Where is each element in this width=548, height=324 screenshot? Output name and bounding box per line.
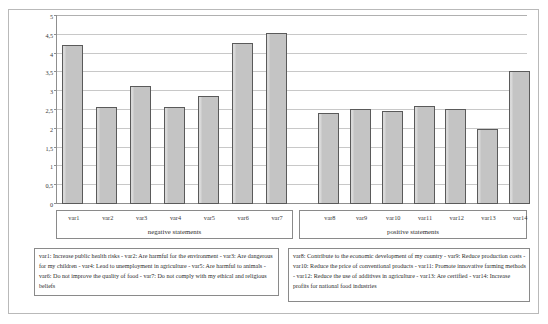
category-label-var14: var14 — [513, 214, 527, 221]
y-axis-tick-label: 2 — [50, 125, 53, 132]
y-axis-tick-label: 5 — [50, 13, 53, 20]
category-label-var8: var8 — [324, 214, 335, 221]
y-axis-tick-label: 1 — [50, 163, 53, 170]
y-axis-tick-label: 0,5 — [46, 182, 53, 189]
category-label-var5: var5 — [204, 214, 215, 221]
category-labels-negative: var1var2var3var4var5var6var7 — [57, 211, 292, 226]
bar-series — [56, 16, 527, 204]
category-group-negative: var1var2var3var4var5var6var7 negative st… — [56, 210, 293, 239]
plot-area: 00,511,522,533,544,55 — [34, 16, 527, 204]
category-label-var7: var7 — [271, 214, 282, 221]
bar — [130, 86, 151, 204]
y-axis: 00,511,522,533,544,55 — [34, 16, 56, 204]
y-axis-tick-label: 4,5 — [46, 31, 53, 38]
category-label-var12: var12 — [450, 214, 464, 221]
y-axis-tick-label: 0 — [50, 201, 53, 208]
legend-note-negative: var1: Increase public health risks - var… — [34, 248, 279, 296]
y-axis-tick-label: 1,5 — [46, 144, 53, 151]
bar — [232, 43, 253, 204]
group-title-positive: positive statements — [300, 228, 526, 235]
y-axis-tick-label: 2,5 — [46, 107, 53, 114]
bar — [62, 45, 83, 204]
category-label-var4: var4 — [170, 214, 181, 221]
y-axis-tick-label: 3 — [50, 88, 53, 95]
bar — [445, 109, 466, 204]
bar — [198, 96, 219, 204]
chart-figure: 00,511,522,533,544,55 var1var2var3var4va… — [8, 9, 539, 314]
category-labels-positive: var8var9var10var11var12var13var14 — [300, 211, 526, 226]
category-label-var11: var11 — [418, 214, 432, 221]
category-label-var2: var2 — [102, 214, 113, 221]
category-label-var6: var6 — [238, 214, 249, 221]
legend-note-positive: var8: Contribute to the economic develop… — [288, 248, 530, 302]
category-label-var1: var1 — [68, 214, 79, 221]
bar — [509, 71, 530, 204]
bar — [318, 113, 339, 204]
bar — [266, 33, 287, 204]
category-group-positive: var8var9var10var11var12var13var14 positi… — [299, 210, 527, 239]
bar — [164, 107, 185, 204]
bar — [382, 111, 403, 204]
category-label-var13: var13 — [481, 214, 495, 221]
y-axis-tick-label: 4 — [50, 50, 53, 57]
bar — [414, 106, 435, 204]
category-label-var9: var9 — [356, 214, 367, 221]
bar — [96, 107, 117, 204]
group-title-negative: negative statements — [57, 228, 292, 235]
bar — [350, 109, 371, 204]
bar — [477, 129, 498, 204]
y-axis-tick-label: 3,5 — [46, 69, 53, 76]
category-label-var3: var3 — [136, 214, 147, 221]
category-label-var10: var10 — [386, 214, 400, 221]
